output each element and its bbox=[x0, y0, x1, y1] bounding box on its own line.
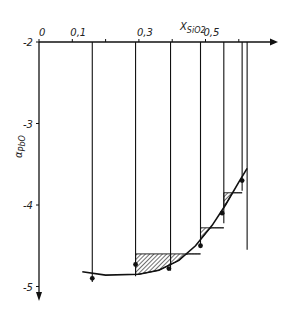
data-point bbox=[166, 266, 171, 271]
y-tick-label: -2 bbox=[23, 37, 33, 48]
data-point bbox=[240, 178, 245, 183]
x-tick-label: 0 bbox=[39, 27, 45, 38]
vertical-lines bbox=[92, 42, 247, 282]
y-tick-label: -5 bbox=[23, 282, 33, 293]
x-axis-label: XSiO2 bbox=[179, 21, 206, 35]
x-tick-label: 0,1 bbox=[70, 27, 86, 38]
hatched-step bbox=[224, 193, 242, 208]
data-point bbox=[90, 276, 95, 281]
data-point bbox=[198, 243, 203, 248]
x-axis-arrow-icon bbox=[270, 39, 278, 46]
chart: 00,10,30,5-2-3-4-5 XSiO2 αPbO bbox=[0, 0, 282, 313]
hatched-step bbox=[201, 228, 224, 240]
x-tick-label: 0,5 bbox=[204, 27, 220, 38]
x-tick-label: 0,3 bbox=[137, 27, 153, 38]
y-tick-label: -3 bbox=[23, 119, 33, 130]
tick-labels: 00,10,30,5-2-3-4-5 bbox=[23, 27, 219, 293]
y-axis-label: αPbO bbox=[13, 135, 27, 158]
y-axis-arrow-icon bbox=[36, 292, 42, 301]
data-point bbox=[220, 211, 225, 216]
data-point bbox=[133, 262, 138, 267]
y-tick-label: -4 bbox=[23, 200, 33, 211]
